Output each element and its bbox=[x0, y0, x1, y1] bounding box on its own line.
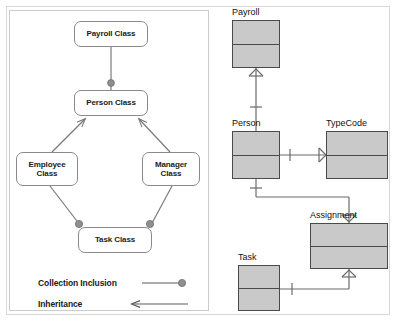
edge-manager-task bbox=[146, 186, 172, 228]
class-box-manager-label-line1: Manager bbox=[155, 160, 187, 169]
class-box-manager-label-line2: Class bbox=[161, 169, 182, 178]
entity-label-typecode: TypeCode bbox=[326, 118, 367, 128]
entity-box-task[interactable] bbox=[238, 265, 280, 311]
collection-inclusion-marker bbox=[108, 80, 115, 87]
edge-manager-person bbox=[139, 119, 170, 152]
entity-box-typecode[interactable] bbox=[326, 131, 388, 179]
class-box-person-label: Person Class bbox=[86, 98, 136, 107]
class-box-payroll[interactable]: Payroll Class bbox=[74, 21, 148, 47]
entity-divider bbox=[233, 155, 279, 156]
class-box-person[interactable]: Person Class bbox=[74, 90, 148, 116]
legend-item-inheritance: Inheritance bbox=[38, 299, 82, 309]
diagram-canvas: Payroll Class Person Class Employee Clas… bbox=[0, 0, 399, 325]
entity-box-person[interactable] bbox=[232, 131, 280, 179]
entity-divider bbox=[327, 155, 387, 156]
entity-box-payroll[interactable] bbox=[232, 20, 280, 68]
class-box-employee[interactable]: Employee Class bbox=[16, 152, 78, 186]
legend-item-inheritance-label: Inheritance bbox=[38, 299, 82, 309]
legend-symbol-collection-inclusion bbox=[142, 279, 186, 286]
edge-employee-task bbox=[50, 186, 83, 228]
edge-payroll-person bbox=[108, 47, 115, 90]
class-box-employee-label-line1: Employee bbox=[29, 160, 66, 169]
er-relationship-person-typecode bbox=[280, 148, 326, 162]
entity-divider bbox=[239, 288, 279, 289]
entity-box-assignment[interactable] bbox=[310, 223, 388, 269]
class-box-task-label: Task Class bbox=[95, 235, 135, 244]
er-relationship-task-assignment bbox=[280, 269, 356, 295]
entity-label-person: Person bbox=[232, 118, 261, 128]
entity-label-payroll: Payroll bbox=[232, 7, 260, 17]
class-box-employee-label-line2: Class bbox=[37, 169, 58, 178]
class-box-payroll-label: Payroll Class bbox=[87, 29, 136, 38]
class-box-task[interactable]: Task Class bbox=[78, 227, 152, 253]
legend-item-collection-inclusion-label: Collection Inclusion bbox=[38, 278, 117, 288]
entity-divider bbox=[311, 246, 387, 247]
entity-label-task: Task bbox=[238, 252, 257, 262]
legend-item-collection-inclusion: Collection Inclusion bbox=[38, 278, 117, 288]
edge-employee-person bbox=[52, 119, 85, 152]
entity-divider bbox=[233, 44, 279, 45]
entity-label-assignment: Assignment bbox=[310, 210, 357, 220]
class-box-manager[interactable]: Manager Class bbox=[142, 152, 200, 186]
